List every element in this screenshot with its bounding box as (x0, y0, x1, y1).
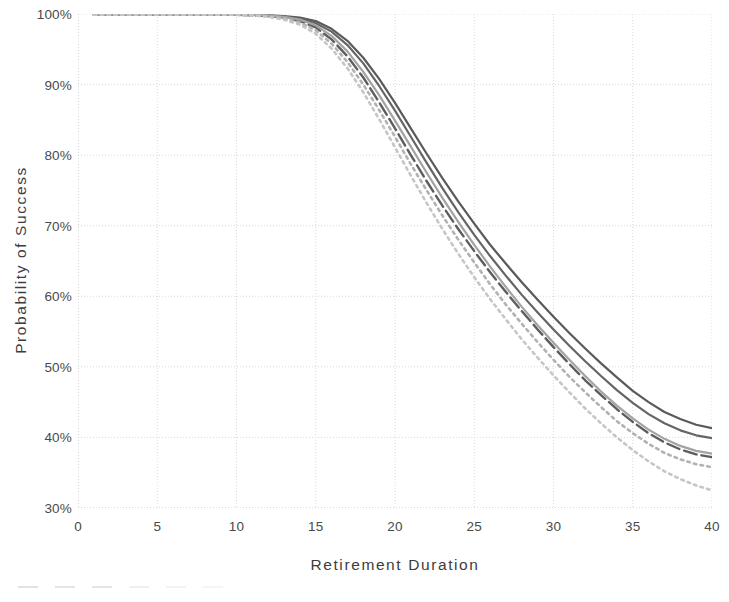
legend-swatch-icon (18, 586, 38, 588)
y-tick-label: 80% (24, 148, 72, 163)
x-tick-label: 10 (229, 519, 244, 534)
legend-item (166, 586, 190, 588)
legend-swatch-icon (166, 586, 186, 588)
chart-legend (0, 586, 729, 602)
x-tick-label: 5 (153, 519, 161, 534)
legend-item (203, 586, 227, 588)
y-tick-label: 100% (24, 7, 72, 22)
data-series (94, 15, 712, 491)
plot-area (78, 14, 712, 508)
x-tick-label: 40 (704, 519, 719, 534)
x-tick-label: 35 (625, 519, 640, 534)
legend-swatch-icon (55, 586, 75, 588)
legend-item (55, 586, 79, 588)
series-line-1 (94, 15, 712, 429)
series-line-4 (94, 15, 712, 454)
y-tick-label: 70% (24, 218, 72, 233)
series-line-2 (94, 15, 712, 438)
y-tick-label: 50% (24, 359, 72, 374)
legend-swatch-icon (92, 586, 112, 588)
legend-item (18, 586, 42, 588)
x-axis-title: Retirement Duration (78, 556, 712, 574)
y-axis-tick-labels: 30%40%50%60%70%80%90%100% (14, 0, 72, 602)
gridlines (78, 14, 712, 508)
legend-swatch-icon (129, 586, 149, 588)
legend-items (18, 586, 227, 588)
y-tick-label: 30% (24, 501, 72, 516)
y-tick-label: 90% (24, 77, 72, 92)
legend-swatch-icon (203, 586, 223, 588)
x-tick-label: 15 (308, 519, 323, 534)
x-tick-label: 25 (467, 519, 482, 534)
y-tick-label: 60% (24, 289, 72, 304)
series-line-6 (94, 15, 712, 491)
x-tick-label: 0 (74, 519, 82, 534)
plot-svg (78, 14, 712, 508)
legend-item (129, 586, 153, 588)
y-tick-label: 40% (24, 430, 72, 445)
x-tick-label: 30 (546, 519, 561, 534)
legend-item (92, 586, 116, 588)
chart-figure: Probability of Success 30%40%50%60%70%80… (0, 0, 729, 602)
x-tick-label: 20 (387, 519, 402, 534)
series-line-5 (94, 15, 712, 467)
